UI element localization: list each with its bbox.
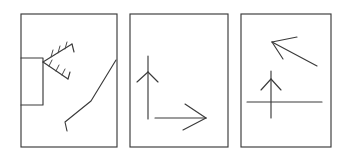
panel-2-group: [130, 14, 228, 147]
panel-2-right-arrow-barb-upper: [185, 104, 206, 118]
panel-2-right-arrow-barb-lower: [183, 118, 206, 130]
panel-2-frame: [130, 14, 228, 147]
panel-3-up-arrow-barb-left: [261, 79, 271, 90]
panel-3-frame: [241, 14, 331, 147]
panel-3-group: [241, 14, 331, 147]
panel-1-feather-tick-lower-1: [49, 60, 52, 66]
panel-1-feather-tick-lower-3: [62, 69, 65, 75]
panel-1-feather-tick-lower-2: [56, 65, 59, 71]
figure-root: [0, 0, 349, 159]
panel-1-feathered-arrow-upper-tip: [72, 44, 74, 52]
panel-1-bent-polyline: [65, 60, 116, 131]
panel-1-group: [21, 14, 117, 147]
panel-3-up-arrow-barb-right: [271, 79, 281, 90]
panel-1-open-rectangle: [21, 58, 43, 105]
panel-3-diagonal-arrow-barb-upper: [272, 37, 297, 42]
diagram-canvas: [0, 0, 349, 159]
panel-1-frame: [21, 14, 117, 147]
panel-3-diagonal-arrow-shaft: [272, 42, 317, 66]
panel-2-up-arrow-barb-right: [148, 72, 158, 82]
panel-2-up-arrow-barb-left: [137, 72, 148, 82]
panel-1-feathered-arrow-lower-tip: [68, 72, 70, 79]
